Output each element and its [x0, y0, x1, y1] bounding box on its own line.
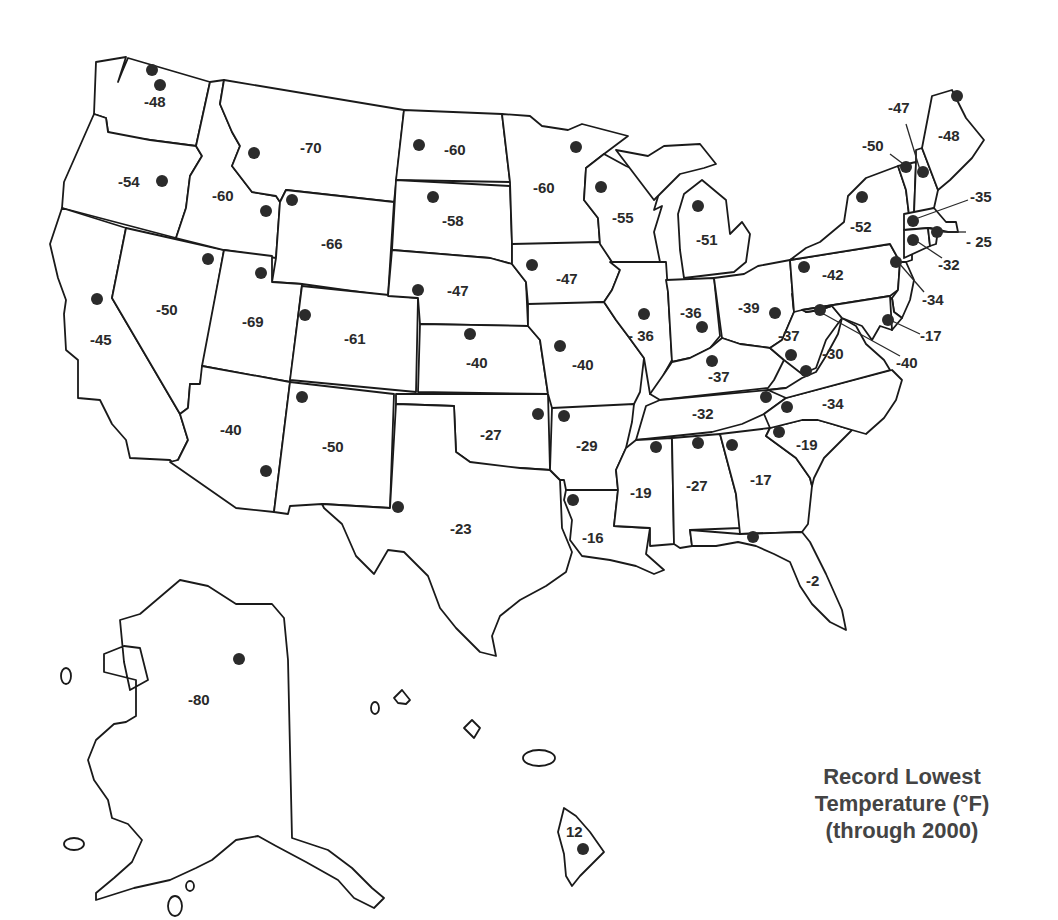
dot-pa [798, 261, 810, 273]
dot-ks [464, 328, 476, 340]
label-ny: -52 [850, 218, 872, 235]
label-tn: -32 [692, 405, 714, 422]
label-nh: -47 [888, 99, 910, 116]
dot-wa-2 [154, 79, 166, 91]
dot-ga [726, 439, 738, 451]
label-il: - 36 [628, 327, 654, 344]
dot-fl [747, 531, 759, 543]
label-ri: - 25 [966, 233, 992, 250]
state-florida [690, 530, 846, 630]
dot-ky [706, 355, 718, 367]
dot-hi [577, 843, 589, 855]
dot-mn [570, 141, 582, 153]
dot-ri [931, 226, 943, 238]
dot-la [567, 494, 579, 506]
dot-ny [856, 191, 868, 203]
label-ms: -19 [630, 484, 652, 501]
label-fl: -2 [806, 572, 819, 589]
label-tx: -23 [450, 520, 472, 537]
dot-va [800, 365, 812, 377]
dot-co [299, 309, 311, 321]
dot-ct [907, 234, 919, 246]
dot-nv [202, 253, 214, 265]
label-ne: -47 [447, 282, 469, 299]
hawaii-island [394, 690, 410, 704]
label-al: -27 [686, 477, 708, 494]
dot-mo [554, 340, 566, 352]
alaska-island [64, 838, 84, 850]
hawaii-island [523, 750, 555, 766]
label-ct: -32 [938, 256, 960, 273]
dot-ma [907, 215, 919, 227]
dot-wv [785, 349, 797, 361]
label-in: -36 [680, 304, 702, 321]
dot-al [692, 437, 704, 449]
label-or: -54 [118, 173, 140, 190]
dot-nj [890, 256, 902, 268]
label-hi: 12 [566, 823, 583, 840]
label-wi: -55 [612, 209, 634, 226]
label-mo: -40 [572, 356, 594, 373]
map-title-line-1: Record Lowest [782, 763, 1022, 790]
label-mn: -60 [533, 179, 555, 196]
label-ks: -40 [466, 354, 488, 371]
dot-ak [233, 653, 245, 665]
label-wa: -48 [144, 93, 166, 110]
dot-mi [692, 200, 704, 212]
label-sd: -58 [442, 212, 464, 229]
dot-wy [286, 194, 298, 206]
dot-or [156, 175, 168, 187]
label-la: -16 [582, 529, 604, 546]
dot-ar [558, 410, 570, 422]
alaska-island [61, 668, 71, 684]
map-title: Record Lowest Temperature (°F) (through … [782, 763, 1022, 844]
map-title-line-3: (through 2000) [782, 817, 1022, 844]
state-alaska [88, 580, 384, 908]
dot-vt [900, 161, 912, 173]
hawaii-island [464, 720, 480, 738]
dot-ia [526, 259, 538, 271]
label-ak: -80 [188, 691, 210, 708]
label-wv: -37 [778, 327, 800, 344]
label-nd: -60 [444, 141, 466, 158]
state-new-york [790, 166, 912, 262]
dot-tn [760, 391, 772, 403]
map-title-line-2: Temperature (°F) [782, 790, 1022, 817]
dot-az [260, 465, 272, 477]
dot-nm [296, 391, 308, 403]
label-nv: -50 [156, 301, 178, 318]
label-az: -40 [220, 421, 242, 438]
dot-ca [91, 293, 103, 305]
dot-nh [917, 166, 929, 178]
label-wy: -66 [321, 235, 343, 252]
hawaii-island [371, 702, 379, 714]
dot-me [951, 90, 963, 102]
dot-sd [427, 191, 439, 203]
dot-ms [650, 441, 662, 453]
dot-tx [392, 501, 404, 513]
label-ky: -37 [708, 368, 730, 385]
alaska-island [186, 881, 194, 891]
dot-il [638, 308, 650, 320]
label-ok: -27 [480, 426, 502, 443]
dot-mt [248, 147, 260, 159]
dot-sc [773, 426, 785, 438]
label-sc: -19 [796, 436, 818, 453]
dot-ut [255, 267, 267, 279]
dot-nd [413, 139, 425, 151]
label-mi: -51 [696, 231, 718, 248]
label-ga: -17 [750, 471, 772, 488]
label-pa: -42 [822, 266, 844, 283]
label-me: -48 [938, 127, 960, 144]
dot-de [882, 314, 894, 326]
alaska-island [168, 896, 182, 916]
label-ma: -35 [970, 188, 992, 205]
label-co: -61 [344, 330, 366, 347]
label-oh: -39 [738, 299, 760, 316]
dot-in [696, 321, 708, 333]
label-ca: -45 [90, 331, 112, 348]
label-va: -30 [822, 345, 844, 362]
label-nc: -34 [822, 395, 844, 412]
dot-ok [532, 408, 544, 420]
dot-wa-1 [146, 64, 158, 76]
